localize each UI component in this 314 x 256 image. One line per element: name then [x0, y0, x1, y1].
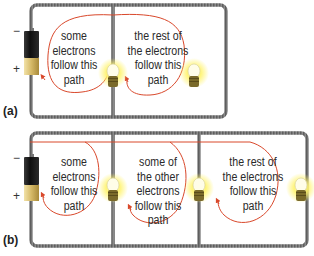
battery-minus-label-a: − [13, 24, 20, 38]
path-caption-a2: the rest of the electrons follow this pa… [124, 29, 192, 87]
battery-b [24, 154, 39, 201]
battery-plus-label-a: + [13, 62, 20, 76]
panel-label-a: (a) [3, 104, 18, 118]
battery-a [24, 28, 39, 75]
panel-label-b: (b) [3, 233, 18, 247]
path-caption-a1: some electrons follow this path [45, 29, 103, 87]
bulb-b3 [286, 173, 314, 203]
battery-plus-label-b: + [13, 189, 20, 203]
path-caption-b2: some of the other electrons follow this … [127, 155, 188, 228]
path-caption-b3: the rest of the electrons follow this pa… [219, 155, 287, 213]
battery-minus-label-b: − [13, 151, 20, 165]
path-caption-b1: some electrons follow this path [45, 155, 103, 213]
